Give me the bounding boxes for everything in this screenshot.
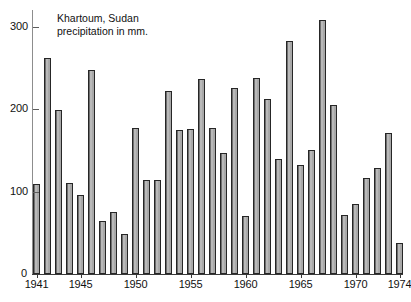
bar-1947: [99, 221, 106, 274]
bar-1959: [231, 88, 238, 274]
bar-1956: [198, 79, 205, 274]
y-axis-labels: 100200300: [0, 0, 28, 302]
bar-1943: [55, 110, 62, 274]
x-axis-line: [32, 274, 403, 275]
y-tick-mark-100: [33, 192, 39, 193]
x-tick-mark-1955: [191, 274, 192, 278]
bar-1974: [396, 243, 403, 274]
x-tick-label-1945: 1945: [69, 278, 93, 290]
bar-1972: [374, 168, 381, 274]
bar-1963: [275, 159, 282, 274]
x-tick-mark-1974: [400, 274, 401, 278]
x-tick-mark-1945: [81, 274, 82, 278]
bar-1949: [121, 234, 128, 274]
y-tick-mark-200: [33, 109, 39, 110]
bar-1950: [132, 128, 139, 274]
x-tick-label-1955: 1955: [179, 278, 203, 290]
bar-1954: [176, 130, 183, 274]
bar-1948: [110, 212, 117, 274]
x-tick-label-1970: 1970: [344, 278, 368, 290]
x-tick-label-1965: 1965: [289, 278, 313, 290]
bar-1973: [385, 133, 392, 274]
bar-1960: [242, 216, 249, 274]
x-axis-labels: 19411945195019551960196519701974: [0, 278, 405, 298]
bar-1969: [341, 215, 348, 274]
bar-1957: [209, 128, 216, 274]
x-tick-mark-1960: [246, 274, 247, 278]
bar-1955: [187, 129, 194, 274]
x-tick-label-1950: 1950: [124, 278, 148, 290]
bar-1967: [319, 20, 326, 274]
x-tick-label-1974: 1974: [388, 278, 411, 290]
y-tick-mark-300: [33, 27, 39, 28]
y-tick-label-100: 100: [10, 186, 28, 197]
bar-1941: [33, 184, 40, 274]
bar-1965: [297, 165, 304, 274]
y-tick-label-200: 200: [10, 103, 28, 114]
x-tick-label-1960: 1960: [234, 278, 258, 290]
x-tick-label-1941: 1941: [25, 278, 49, 290]
bar-1970: [352, 204, 359, 274]
bar-1958: [220, 153, 227, 274]
bar-1945: [77, 195, 84, 274]
bar-1951: [143, 180, 150, 274]
bar-1946: [88, 70, 95, 274]
y-tick-label-300: 300: [10, 21, 28, 32]
bar-1966: [308, 150, 315, 274]
bar-1964: [286, 41, 293, 274]
bars-container: [33, 10, 403, 274]
bar-1944: [66, 183, 73, 274]
bar-1952: [154, 180, 161, 274]
x-tick-mark-1950: [136, 274, 137, 278]
bar-1953: [165, 91, 172, 274]
bar-1962: [264, 99, 271, 274]
bar-1971: [363, 178, 370, 274]
x-tick-mark-1965: [301, 274, 302, 278]
bar-1968: [330, 105, 337, 274]
x-tick-mark-1970: [356, 274, 357, 278]
bar-1961: [253, 78, 260, 274]
x-tick-mark-1941: [37, 274, 38, 278]
bar-1942: [44, 58, 51, 274]
